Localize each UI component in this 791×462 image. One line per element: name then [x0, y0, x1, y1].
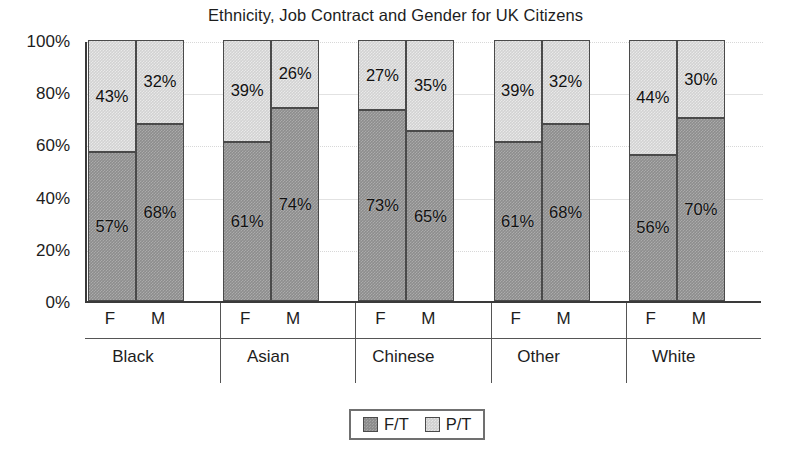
x-axis-gender-label: F [356, 309, 404, 329]
bar-segment-full-time[interactable]: 68% [136, 124, 184, 301]
stacked-bar[interactable]: 35%65% [406, 40, 454, 301]
bar-group: 39%61%26%74% [223, 40, 319, 301]
x-axis-gender-label: M [269, 309, 317, 329]
bar-value-label: 74% [279, 195, 312, 214]
y-axis-tick-label: 0% [45, 293, 70, 313]
bar-segment-full-time[interactable]: 68% [542, 124, 590, 301]
bar-value-label: 32% [549, 72, 582, 91]
stacked-bar[interactable]: 44%56% [629, 40, 677, 301]
bar-segment-part-time[interactable]: 30% [677, 40, 725, 118]
bar-value-label: 57% [95, 217, 128, 236]
legend-swatch-part-time [425, 417, 440, 432]
chart-title: Ethnicity, Job Contract and Gender for U… [0, 6, 791, 25]
bar-group: 39%61%32%68% [494, 40, 590, 301]
bar-segment-part-time[interactable]: 39% [223, 40, 271, 142]
plot-area: 43%57%32%68%39%61%26%74%27%73%35%65%39%6… [85, 42, 761, 303]
x-axis-group-label: White [626, 347, 722, 367]
bar-segment-full-time[interactable]: 61% [494, 142, 542, 301]
x-axis-gender-label: M [540, 309, 588, 329]
bar-value-label: 65% [414, 207, 447, 226]
bar-segment-part-time[interactable]: 27% [358, 40, 406, 110]
bar-value-label: 70% [684, 200, 717, 219]
bar-segment-full-time[interactable]: 56% [629, 155, 677, 301]
stacked-bar[interactable]: 30%70% [677, 40, 725, 301]
bar-segment-part-time[interactable]: 35% [406, 40, 454, 131]
x-axis-gender-label: M [675, 309, 723, 329]
y-axis-tick-label: 60% [36, 136, 70, 156]
bar-value-label: 35% [414, 76, 447, 95]
y-axis-tick-label: 80% [36, 84, 70, 104]
bar-group: 43%57%32%68% [88, 40, 184, 301]
bar-value-label: 39% [501, 81, 534, 100]
bar-segment-full-time[interactable]: 73% [358, 110, 406, 301]
bar-value-label: 26% [279, 64, 312, 83]
bar-segment-part-time[interactable]: 26% [271, 40, 319, 108]
x-axis-gender-label: F [492, 309, 540, 329]
x-axis-gender-label: F [86, 309, 134, 329]
bar-segment-full-time[interactable]: 70% [677, 118, 725, 301]
x-axis-group-label: Other [491, 347, 587, 367]
y-axis-tick-label: 100% [27, 32, 70, 52]
y-axis-tick-label: 40% [36, 189, 70, 209]
bar-value-label: 30% [684, 70, 717, 89]
bar-segment-full-time[interactable]: 74% [271, 108, 319, 301]
y-axis-tick-label: 20% [36, 241, 70, 261]
x-axis-gender-label: F [221, 309, 269, 329]
bar-value-label: 39% [231, 81, 264, 100]
bar-segment-full-time[interactable]: 57% [88, 152, 136, 301]
bar-group: 44%56%30%70% [629, 40, 725, 301]
bar-segment-part-time[interactable]: 44% [629, 40, 677, 155]
bar-segment-part-time[interactable]: 32% [542, 40, 590, 124]
legend-swatch-full-time [363, 417, 378, 432]
x-axis-gender-label: M [404, 309, 452, 329]
bar-value-label: 68% [143, 203, 176, 222]
bar-segment-part-time[interactable]: 32% [136, 40, 184, 124]
bar-value-label: 68% [549, 203, 582, 222]
bar-value-label: 56% [636, 218, 669, 237]
stacked-bar[interactable]: 32%68% [136, 40, 184, 301]
stacked-bar[interactable]: 39%61% [223, 40, 271, 301]
y-axis: 0%20%40%60%80%100% [0, 42, 78, 303]
x-axis-gender-row: FMFMFMFMFM [85, 303, 761, 339]
bar-segment-full-time[interactable]: 65% [406, 131, 454, 301]
legend-label: P/T [446, 415, 472, 434]
stacked-bar[interactable]: 39%61% [494, 40, 542, 301]
bar-value-label: 61% [231, 212, 264, 231]
bar-value-label: 32% [143, 72, 176, 91]
chart-legend: F/TP/T [349, 409, 485, 440]
stacked-bar[interactable]: 32%68% [542, 40, 590, 301]
x-axis-group-label: Black [85, 347, 181, 367]
x-axis-gender-label: M [134, 309, 182, 329]
bar-value-label: 27% [366, 66, 399, 85]
bar-segment-full-time[interactable]: 61% [223, 142, 271, 301]
x-axis-group-label: Chinese [355, 347, 451, 367]
legend-entry[interactable]: P/T [425, 415, 472, 434]
stacked-bar[interactable]: 43%57% [88, 40, 136, 301]
x-axis-gender-label: F [627, 309, 675, 329]
bar-value-label: 61% [501, 212, 534, 231]
bar-group: 27%73%35%65% [358, 40, 454, 301]
bar-segment-part-time[interactable]: 39% [494, 40, 542, 142]
bar-value-label: 44% [636, 88, 669, 107]
x-axis-group-row: BlackAsianChineseOtherWhite [85, 339, 761, 383]
stacked-bar[interactable]: 26%74% [271, 40, 319, 301]
x-axis-group-label: Asian [220, 347, 316, 367]
legend-label: F/T [384, 415, 409, 434]
bar-value-label: 43% [95, 87, 128, 106]
legend-entry[interactable]: F/T [363, 415, 409, 434]
bar-segment-part-time[interactable]: 43% [88, 40, 136, 152]
bar-value-label: 73% [366, 196, 399, 215]
stacked-bar[interactable]: 27%73% [358, 40, 406, 301]
